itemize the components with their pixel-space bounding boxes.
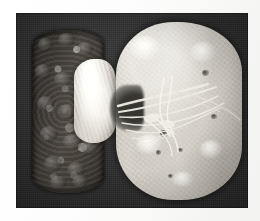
- figure-page: [0, 0, 260, 221]
- specimen-nodule: [40, 126, 58, 142]
- surface-highlight: [190, 42, 216, 62]
- gross-specimen-photograph: [16, 13, 248, 208]
- specimen-nodule: [77, 42, 93, 56]
- specimen-nodule: [35, 64, 51, 79]
- specimen-nodule: [44, 156, 62, 172]
- surface-pit: [168, 174, 173, 178]
- specimen-nodule: [38, 38, 53, 51]
- surface-highlight: [130, 36, 160, 60]
- hilar-vessels-and-ureter: [116, 68, 248, 158]
- specimen-nodule: [72, 175, 88, 188]
- specimen-nodule: [50, 176, 67, 189]
- specimen-nodule: [37, 96, 54, 111]
- specimen-nodule: [58, 33, 75, 47]
- specimen-nodule: [54, 72, 72, 87]
- surface-highlight: [172, 172, 194, 186]
